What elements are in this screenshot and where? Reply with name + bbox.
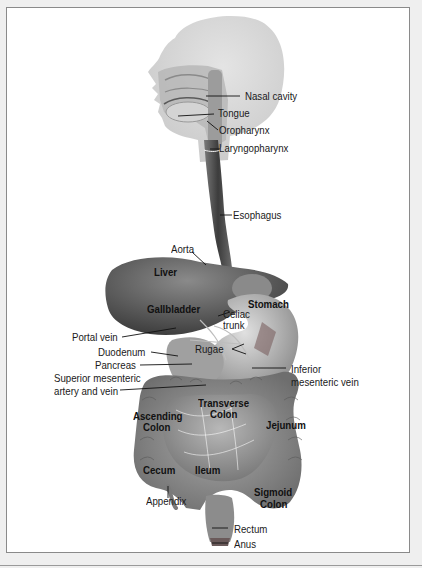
label-esophagus: Esophagus	[233, 209, 281, 221]
label-superior-mesenteric-line2: artery and vein	[54, 385, 118, 397]
label-tongue: Tongue	[218, 107, 250, 119]
digestive-system-illustration	[0, 0, 422, 568]
label-sigmoid-colon-line1: Sigmoid	[254, 486, 292, 498]
label-nasal-cavity: Nasal cavity	[245, 90, 297, 102]
label-stomach: Stomach	[248, 298, 289, 310]
label-rugae: Rugae	[195, 343, 224, 355]
label-sigmoid-colon-line2: Colon	[260, 498, 287, 510]
label-celiac-trunk-line2: trunk	[223, 319, 245, 331]
label-pancreas: Pancreas	[95, 359, 136, 371]
label-ileum: Ileum	[195, 464, 220, 476]
rectum-shape	[205, 495, 234, 542]
label-oropharynx: Oropharynx	[219, 124, 270, 136]
label-inferior-mesenteric-line2: mesenteric vein	[291, 376, 359, 388]
label-transverse-colon-line2: Colon	[210, 408, 237, 420]
label-appendix: Appendix	[146, 495, 186, 507]
label-laryngopharynx: Laryngopharynx	[219, 142, 288, 154]
label-superior-mesenteric-line1: Superior mesenteric	[54, 372, 141, 384]
label-rectum: Rectum	[234, 523, 267, 535]
label-jejunum: Jejunum	[266, 419, 306, 431]
label-cecum: Cecum	[143, 464, 175, 476]
label-inferior-mesenteric-line1: Inferior	[291, 363, 321, 375]
label-ascending-colon-line2: Colon	[143, 421, 170, 433]
label-liver: Liver	[154, 266, 177, 278]
label-anus: Anus	[234, 538, 256, 550]
label-aorta: Aorta	[171, 243, 194, 255]
label-gallbladder: Gallbladder	[147, 303, 200, 315]
label-duodenum: Duodenum	[98, 346, 145, 358]
label-portal-vein: Portal vein	[72, 331, 118, 343]
